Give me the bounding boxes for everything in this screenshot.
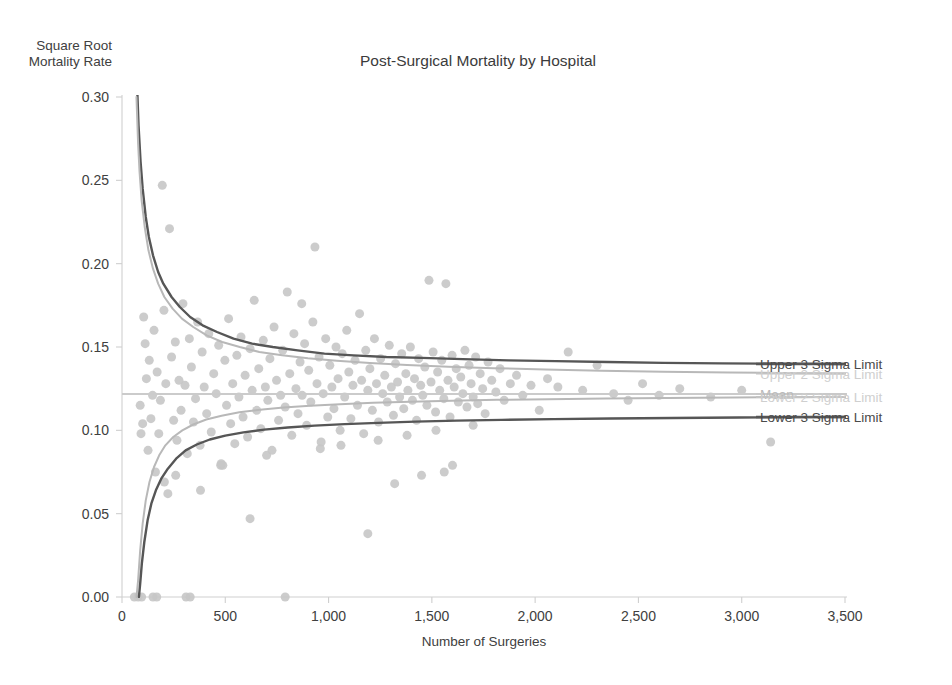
hospital-point [294, 409, 303, 418]
hospital-point [481, 409, 490, 418]
hospital-point [334, 374, 343, 383]
hospital-point [209, 369, 218, 378]
hospital-point [154, 429, 163, 438]
legend: Upper 3 Sigma LimitUpper 2 Sigma LimitMe… [756, 357, 883, 425]
x-tick-label: 500 [214, 608, 238, 624]
hospital-point [281, 593, 290, 602]
hospital-point [427, 378, 436, 387]
hospital-point [476, 369, 485, 378]
hospital-point [191, 394, 200, 403]
x-tick-label: 3,000 [724, 608, 759, 624]
hospital-point [408, 396, 417, 405]
hospital-point [624, 396, 633, 405]
hospital-point [263, 396, 272, 405]
hospital-point [185, 334, 194, 343]
hospital-point [766, 438, 775, 447]
y-tick-label: 0.20 [82, 256, 109, 272]
hospital-point [224, 314, 233, 323]
hospital-point [146, 414, 155, 423]
hospital-point [181, 381, 190, 390]
hospital-point [353, 401, 362, 410]
hospital-point [138, 419, 147, 428]
y-tick-label: 0.15 [82, 339, 109, 355]
hospital-point [148, 391, 157, 400]
y-axis-title-line2: Mortality Rate [29, 54, 112, 69]
x-tick-label: 1,500 [414, 608, 449, 624]
hospital-point [217, 459, 226, 468]
hospital-point [250, 296, 259, 305]
hospital-point [165, 224, 174, 233]
hospital-point [321, 334, 330, 343]
hospital-point [348, 381, 357, 390]
hospital-point [440, 468, 449, 477]
hospital-point [156, 396, 165, 405]
hospital-point [342, 326, 351, 335]
hospital-point [313, 379, 322, 388]
hospital-point [638, 379, 647, 388]
hospital-point [403, 431, 412, 440]
hospital-point [368, 406, 377, 415]
hospital-point [543, 374, 552, 383]
hospital-point [424, 276, 433, 285]
hospital-point [361, 346, 370, 355]
hospital-point [355, 309, 364, 318]
hospital-point [198, 348, 207, 357]
hospital-point [304, 366, 313, 375]
hospital-point [285, 369, 294, 378]
hospital-point [136, 401, 145, 410]
hospital-point [144, 446, 153, 455]
hospital-point [163, 489, 172, 498]
hospital-point [262, 451, 271, 460]
hospital-point [417, 471, 426, 480]
hospital-point [202, 409, 211, 418]
hospital-point [291, 384, 300, 393]
hospital-point [187, 363, 196, 372]
hospital-point [310, 243, 319, 252]
hospital-point [169, 416, 178, 425]
hospital-point [254, 364, 263, 373]
hospital-point [323, 413, 332, 422]
hospital-point [441, 279, 450, 288]
hospital-point [429, 348, 438, 357]
hospital-point [141, 339, 150, 348]
hospital-point [416, 381, 425, 390]
hospital-point [450, 383, 459, 392]
legend-label[interactable]: Lower 2 Sigma Limit [760, 390, 883, 405]
hospital-point [390, 479, 399, 488]
hospital-point [412, 416, 421, 425]
hospital-point [265, 354, 274, 363]
legend-label[interactable]: Lower 3 Sigma Limit [760, 410, 883, 425]
funnel-plot-chart: Post-Surgical Mortality by Hospital Squa… [0, 0, 952, 685]
hospital-point [196, 486, 205, 495]
hospital-point [325, 361, 334, 370]
hospital-point [363, 529, 372, 538]
hospital-point [239, 413, 248, 422]
hospital-point [220, 356, 229, 365]
hospital-point [246, 514, 255, 523]
hospital-point [139, 313, 148, 322]
hospital-point [289, 329, 298, 338]
hospital-point [385, 341, 394, 350]
hospital-point [241, 371, 250, 380]
chart-title: Post-Surgical Mortality by Hospital [360, 52, 596, 69]
hospital-point [158, 181, 167, 190]
hospital-point [177, 406, 186, 415]
hospital-point [276, 391, 285, 400]
hospital-point [401, 369, 410, 378]
hospital-point [222, 401, 231, 410]
hospital-point [553, 383, 562, 392]
hospital-point [564, 348, 573, 357]
hospital-point [167, 353, 176, 362]
x-tick-label: 2,500 [621, 608, 656, 624]
y-tick-label: 0.05 [82, 506, 109, 522]
y-tick-label: 0.30 [82, 89, 109, 105]
legend-label[interactable]: Upper 2 Sigma Limit [760, 367, 883, 382]
hospital-point [171, 471, 180, 480]
hospital-point [171, 338, 180, 347]
hospital-point [316, 444, 325, 453]
x-tick-label: 1,000 [311, 608, 346, 624]
hospital-point [374, 436, 383, 445]
hospital-point [456, 373, 465, 382]
chart-canvas: Post-Surgical Mortality by Hospital Squa… [0, 0, 952, 685]
hospital-point [406, 343, 415, 352]
